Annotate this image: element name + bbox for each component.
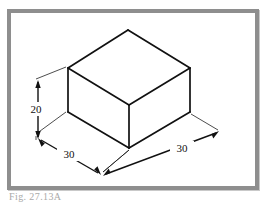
figure-caption: Fig. 27.13A — [9, 190, 149, 203]
figure-border — [7, 9, 259, 190]
figure-root: 20 30 30 Fig. 27.13A — [0, 0, 270, 203]
